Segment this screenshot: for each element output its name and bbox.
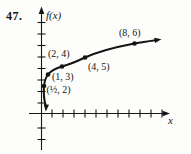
function-graph: (½, 2) (1, 3) (2, 4) (4, 5) (8, 6) f(x) … [0,0,191,154]
point-label-4-5: (4, 5) [88,61,110,73]
point-labels: (½, 2) (1, 3) (2, 4) (4, 5) (8, 6) [47,27,141,96]
point-label-8-6: (8, 6) [119,27,141,39]
point-label-1-3: (1, 3) [52,71,74,83]
data-point-8-6 [132,41,137,46]
y-axis [38,7,46,151]
y-axis-arrow-icon [39,7,45,15]
curve-arrow-down-icon [44,104,49,111]
y-axis-label: f(x) [46,9,62,22]
curve-arrow-right-icon [154,38,161,43]
data-point-2-4 [60,64,65,69]
data-point-4-5 [83,55,88,60]
x-axis-label: x [167,114,173,126]
point-label-2-4: (2, 4) [48,48,70,60]
x-axis [29,110,170,118]
textbook-figure: 47. [0,0,191,154]
data-point-1-3 [46,72,51,77]
point-label-half-2: (½, 2) [47,84,71,96]
